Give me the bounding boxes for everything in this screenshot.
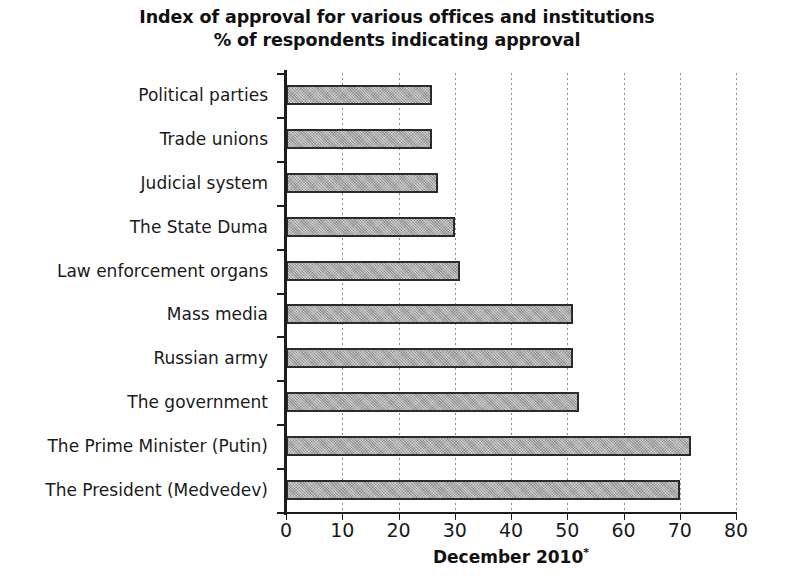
bar-the-prime-minister-putin (286, 436, 691, 456)
bar-political-parties (286, 85, 432, 105)
gridline-80 (736, 73, 737, 512)
chart-title-line2: % of respondents indicating approval (0, 29, 794, 52)
y-label-the-government: The government (127, 392, 268, 412)
y-label-russian-army: Russian army (153, 348, 268, 368)
bar-the-state-duma (286, 217, 455, 237)
y-label-political-parties: Political parties (138, 85, 268, 105)
bar-judicial-system (286, 173, 438, 193)
x-axis-title-text: December 2010 (433, 547, 583, 567)
x-tick-label-20: 20 (386, 518, 410, 542)
bar-the-president-medvedev (286, 480, 680, 500)
bar-the-government (286, 392, 579, 412)
x-tick-label-70: 70 (668, 518, 692, 542)
bar-law-enforcement-organs (286, 261, 460, 281)
x-tick-label-10: 10 (330, 518, 354, 542)
chart-title: Index of approval for various offices an… (0, 6, 794, 52)
x-axis-tick-labels: 01020304050607080 (286, 518, 736, 544)
bar-russian-army (286, 348, 573, 368)
x-axis-title: December 2010* (286, 546, 736, 567)
x-tick-label-30: 30 (443, 518, 467, 542)
y-label-judicial-system: Judicial system (141, 173, 268, 193)
y-label-law-enforcement-organs: Law enforcement organs (57, 261, 268, 281)
x-tick-label-80: 80 (724, 518, 748, 542)
chart-title-line1: Index of approval for various offices an… (139, 7, 654, 27)
y-label-the-president-medvedev: The President (Medvedev) (45, 480, 268, 500)
y-label-the-state-duma: The State Duma (130, 217, 268, 237)
x-tick-label-60: 60 (611, 518, 635, 542)
bar-trade-unions (286, 129, 432, 149)
x-tick-label-0: 0 (280, 518, 292, 542)
y-label-trade-unions: Trade unions (160, 129, 268, 149)
bar-mass-media (286, 304, 573, 324)
x-tick-label-40: 40 (499, 518, 523, 542)
y-axis-category-labels: Political partiesTrade unionsJudicial sy… (0, 73, 276, 512)
plot-area (286, 73, 736, 512)
y-axis-line (284, 70, 287, 515)
y-label-mass-media: Mass media (167, 304, 268, 324)
x-axis-title-footnote: * (583, 546, 589, 559)
x-tick-label-50: 50 (555, 518, 579, 542)
x-axis-line (284, 512, 737, 514)
y-label-the-prime-minister-putin: The Prime Minister (Putin) (47, 436, 268, 456)
